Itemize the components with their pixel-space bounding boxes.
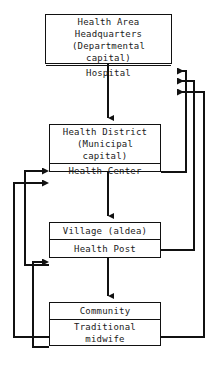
node-traditional-midwife-label: Traditional midwife [50, 319, 160, 346]
node-health-area-headquarters: Health Area Headquarters (Departmental c… [45, 14, 172, 64]
connector-healthpost-to-healthcenter [25, 171, 49, 265]
node-hospital-label: Hospital [46, 65, 171, 80]
node-community: Community Traditional midwife [49, 302, 161, 346]
node-village-title: Village (aldea) [50, 223, 160, 239]
node-health-district: Health District (Municipal capital) Heal… [49, 124, 161, 172]
node-village: Village (aldea) Health Post [49, 222, 161, 258]
connector-healthpost-to-hospital [161, 81, 194, 250]
connector-midwife-to-healthpost [33, 262, 49, 347]
node-health-district-title: Health District (Municipal capital) [50, 125, 160, 163]
connector-midwife-to-hospital [161, 92, 204, 337]
node-health-post-label: Health Post [50, 239, 160, 257]
node-community-title: Community [50, 303, 160, 319]
node-health-area-title: Health Area Headquarters (Departmental c… [46, 15, 171, 65]
connector-midwife-to-healthcenter [14, 183, 49, 337]
referral-flowchart: Health Area Headquarters (Departmental c… [0, 0, 220, 380]
node-health-center-label: Health Center [50, 163, 160, 178]
connector-healthcenter-to-hospital [161, 71, 186, 172]
